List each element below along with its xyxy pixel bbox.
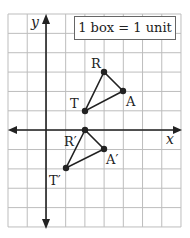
x-axis [8, 126, 182, 134]
label-T: T [70, 96, 79, 111]
label-A-prime: A′ [105, 152, 118, 167]
point-T-prime [63, 165, 69, 171]
triangle-RAT-prime: R′ A′ T′ [49, 127, 118, 188]
y-axis-up-arrow-icon [42, 14, 50, 24]
point-T [82, 108, 88, 114]
y-axis-label: y [30, 14, 40, 30]
y-axis-down-arrow-icon [42, 219, 50, 229]
grid-lines [8, 14, 181, 227]
label-R-prime: R′ [64, 134, 77, 149]
label-T-prime: T′ [49, 173, 61, 188]
x-axis-label: x [166, 131, 174, 147]
label-R: R [91, 56, 102, 71]
point-R-prime [82, 127, 88, 133]
x-axis-left-arrow-icon [8, 126, 17, 134]
point-R [101, 69, 107, 75]
scale-legend: 1 box = 1 unit [74, 16, 176, 40]
y-axis [42, 14, 50, 229]
triangle-RAT: R A T [70, 56, 136, 114]
label-A: A [125, 94, 136, 109]
